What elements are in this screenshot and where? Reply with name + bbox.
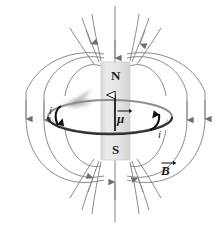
field-line-mid-left-lower xyxy=(44,120,104,177)
mu-symbol: μ xyxy=(117,111,124,126)
mu-label: μ xyxy=(117,112,124,125)
b-symbol: B xyxy=(161,163,170,178)
field-line-nearS-right-3 xyxy=(137,159,161,198)
field-line-near-right-3 xyxy=(137,28,161,64)
field-line-inner-right xyxy=(130,65,166,96)
field-line-near-left-3 xyxy=(70,28,94,64)
south-pole-label: S xyxy=(112,143,119,156)
b-field-label: B xyxy=(161,164,170,177)
field-line-nearS-left-3 xyxy=(70,159,94,198)
field-diagram-canvas xyxy=(0,0,220,228)
field-arrow-topleft-1 xyxy=(86,30,91,44)
field-line-inner-left xyxy=(65,65,101,96)
field-lines-left xyxy=(26,14,104,214)
b-vector-overbar xyxy=(161,160,172,164)
field-line-nearS-left-2 xyxy=(92,162,101,214)
north-pole-label: N xyxy=(111,69,120,82)
field-arrow-topright-1 xyxy=(140,30,145,44)
current-label-left: i xyxy=(49,105,52,116)
field-lines-right xyxy=(127,14,205,214)
field-line-near-right-2 xyxy=(130,14,139,61)
field-arrow-botleft-1 xyxy=(88,178,93,192)
mu-vector-overbar xyxy=(117,108,126,112)
field-line-mid-right xyxy=(127,57,187,120)
field-line-near-left-2 xyxy=(92,14,101,61)
current-label-right: i xyxy=(158,129,161,140)
field-line-nearS-right-2 xyxy=(130,162,139,214)
magnetic-dipole-figure: N S i i μ B xyxy=(0,0,220,228)
field-line-inner-left-lower xyxy=(65,130,101,167)
field-arrow-botright-1 xyxy=(138,178,143,192)
